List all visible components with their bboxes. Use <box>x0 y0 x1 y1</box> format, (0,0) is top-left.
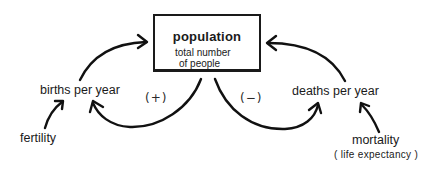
population-description: total number of people <box>175 47 231 69</box>
causal-loop-diagram: population total number of people births… <box>0 0 445 172</box>
population-description-line1: total number <box>175 47 231 58</box>
arrow-deaths-to-population <box>268 43 345 81</box>
mortality-label: mortality <box>352 133 399 147</box>
population-title: population <box>155 29 259 44</box>
fertility-label: fertility <box>20 131 56 145</box>
arrow-fertility-to-births <box>45 102 62 128</box>
positive-loop-sign: (+) <box>145 91 167 105</box>
arrow-mortality-to-deaths <box>362 105 379 132</box>
population-stock-box: population total number of people <box>153 14 261 72</box>
deaths-per-year-label: deaths per year <box>292 84 379 98</box>
negative-loop-sign: (−) <box>240 91 262 105</box>
births-per-year-label: births per year <box>40 83 120 97</box>
arrow-births-to-population <box>80 42 146 80</box>
life-expectancy-note: ( life expectancy ) <box>334 149 418 160</box>
population-description-line2: of people <box>175 58 231 69</box>
